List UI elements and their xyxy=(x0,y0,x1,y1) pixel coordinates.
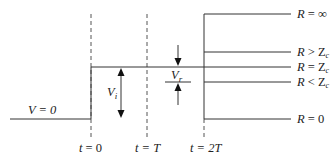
initial-voltage-label: V = 0 xyxy=(28,103,57,117)
incident-voltage-arrow-icon xyxy=(118,68,125,118)
reflected-voltage-label: Vr xyxy=(171,68,183,84)
load-label-r-greater-zc: R > Zc xyxy=(296,45,330,60)
time-label-t0: t = 0 xyxy=(79,141,102,155)
load-label-r-equals-zc: R = Zc xyxy=(296,60,330,75)
load-label-r-infinity: R = ∞ xyxy=(296,7,327,21)
time-label-t2T: t = 2T xyxy=(190,141,222,155)
load-label-r-zero: R = 0 xyxy=(296,112,324,126)
transmission-line-reflection-diagram: V = 0 Vi Vr t = 0 t = T t = 2T R = ∞ R >… xyxy=(0,0,336,158)
load-label-r-less-zc: R < Zc xyxy=(296,75,330,90)
incident-voltage-label: Vi xyxy=(107,85,118,101)
time-label-tT: t = T xyxy=(135,141,161,155)
